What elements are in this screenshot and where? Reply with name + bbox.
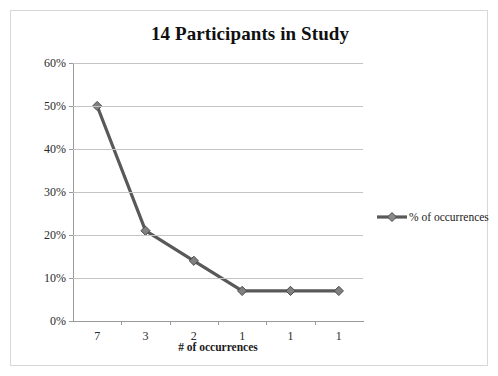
gridline bbox=[73, 149, 363, 150]
y-axis-tick bbox=[69, 321, 73, 322]
y-axis-tick-label: 60% bbox=[44, 56, 66, 71]
y-axis-tick bbox=[69, 106, 73, 107]
y-axis-tick-label: 10% bbox=[44, 271, 66, 286]
gridline bbox=[73, 63, 363, 64]
x-axis-tick bbox=[170, 321, 171, 325]
gridline bbox=[73, 192, 363, 193]
legend-marker-icon bbox=[377, 211, 407, 223]
y-axis-tick-label: 40% bbox=[44, 142, 66, 157]
x-axis-tick bbox=[218, 321, 219, 325]
y-axis-tick-label: 0% bbox=[50, 314, 66, 329]
y-axis-tick-label: 20% bbox=[44, 228, 66, 243]
plot-area: 0%10%20%30%40%50%60%732111 bbox=[73, 63, 363, 321]
legend-label: % of occurrences bbox=[409, 211, 489, 223]
y-axis-tick bbox=[69, 149, 73, 150]
y-axis-tick bbox=[69, 278, 73, 279]
y-axis-tick bbox=[69, 192, 73, 193]
x-axis-tick bbox=[315, 321, 316, 325]
gridline bbox=[73, 235, 363, 236]
gridline bbox=[73, 278, 363, 279]
y-axis-tick-label: 50% bbox=[44, 99, 66, 114]
y-axis-tick bbox=[69, 235, 73, 236]
data-point-marker bbox=[334, 286, 343, 295]
y-axis-tick bbox=[69, 63, 73, 64]
y-axis-tick-label: 30% bbox=[44, 185, 66, 200]
x-axis-tick bbox=[266, 321, 267, 325]
x-axis-tick bbox=[121, 321, 122, 325]
series-line bbox=[97, 106, 339, 291]
chart-frame: 14 Participants in Study % of occurrence… bbox=[10, 10, 488, 366]
data-point-marker bbox=[286, 286, 295, 295]
x-axis-title: # of occurrences bbox=[73, 341, 363, 353]
chart-title: 14 Participants in Study bbox=[11, 23, 489, 45]
chart-legend: % of occurrences bbox=[377, 211, 489, 223]
gridline bbox=[73, 106, 363, 107]
